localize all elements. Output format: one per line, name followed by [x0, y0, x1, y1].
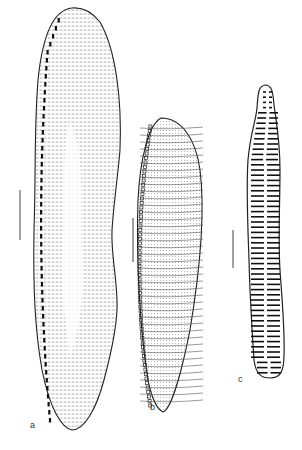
fibula	[45, 74, 47, 79]
fibula	[40, 242, 42, 247]
fibula	[42, 314, 44, 319]
fibula	[43, 338, 45, 343]
fibula	[42, 130, 44, 135]
fibula	[40, 178, 42, 183]
fibula	[41, 138, 43, 143]
fibula	[42, 306, 44, 311]
fibula	[40, 194, 42, 199]
fibula	[46, 378, 48, 383]
panel-label-a: a	[30, 420, 35, 430]
valve-a	[34, 8, 121, 430]
fibula	[44, 82, 46, 87]
keel-pore	[149, 125, 152, 128]
fibula	[41, 282, 43, 287]
fibula	[40, 250, 42, 255]
fibula	[49, 42, 51, 47]
fibula	[41, 290, 43, 295]
fibula	[40, 218, 42, 223]
fibula	[44, 90, 46, 95]
fibula	[46, 386, 48, 391]
fibula	[41, 162, 43, 167]
fibula	[52, 34, 54, 39]
valve-b	[137, 118, 203, 412]
fibula	[43, 330, 45, 335]
fibula	[42, 122, 44, 127]
fibula	[41, 170, 43, 175]
fibula	[44, 354, 46, 359]
fibula	[42, 114, 44, 119]
panel-label-b: b	[150, 402, 155, 412]
fibula	[46, 58, 48, 63]
fibula	[45, 370, 47, 375]
fibula	[45, 66, 47, 71]
fibula	[40, 258, 42, 263]
fibula	[40, 186, 42, 191]
fibula	[49, 418, 51, 423]
fibula	[46, 50, 48, 55]
fibula	[43, 106, 45, 111]
fibula	[40, 226, 42, 231]
fibula	[40, 266, 42, 271]
fibula	[43, 98, 45, 103]
valve-c	[247, 85, 284, 378]
fibula	[41, 298, 43, 303]
keel-pore	[147, 395, 150, 398]
fibula	[41, 274, 43, 279]
fibula	[41, 146, 43, 151]
panel-label-c: c	[238, 374, 243, 384]
fibula	[40, 234, 42, 239]
fibula	[48, 410, 50, 415]
fibula	[55, 26, 57, 31]
fibula	[58, 18, 60, 23]
fibula	[45, 362, 47, 367]
fibula	[41, 154, 43, 159]
fibula	[40, 202, 42, 207]
fibula	[48, 402, 50, 407]
diatom-figure	[0, 0, 302, 450]
fibula	[42, 322, 44, 327]
keel-pore	[147, 391, 150, 394]
fibula	[47, 394, 49, 399]
fibula	[44, 346, 46, 351]
fibula	[40, 210, 42, 215]
